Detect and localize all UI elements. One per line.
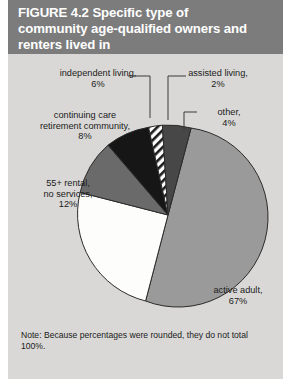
figure-note: Note: Because percentages were rounded, … <box>21 330 273 353</box>
pie-chart: independent living, 6% assisted living, … <box>8 54 283 322</box>
figure-header-line-1: FIGURE 4.2 Specific type of <box>18 5 188 20</box>
pie-label-assisted-living: assisted living, 2% <box>168 68 268 89</box>
pie-label-continuing-care-line1: continuing care <box>26 110 144 121</box>
pie-label-other-value: 4% <box>198 118 260 129</box>
figure-number: FIGURE 4.2 <box>18 5 89 20</box>
pie-label-other: other, 4% <box>198 107 260 128</box>
figure-header-line-2: community age-qualified owners and <box>18 21 247 36</box>
pie-label-active-adult-value: 67% <box>196 296 280 307</box>
pie-label-continuing-care-value: 8% <box>26 131 144 142</box>
pie-label-independent-living-line1: independent living, <box>46 68 150 79</box>
pie-label-55plus-rental: 55+ rental, no services, 12% <box>26 178 110 210</box>
pie-label-continuing-care-line2: retirement community, <box>26 121 144 132</box>
pie-label-independent-living: independent living, 6% <box>46 68 150 89</box>
pie-label-55plus-rental-line2: no services, <box>26 189 110 200</box>
pie-label-continuing-care: continuing care retirement community, 8% <box>26 110 144 142</box>
figure-header: FIGURE 4.2 Specific type of community ag… <box>8 0 283 54</box>
figure-header-line-3: renters lived in <box>18 37 110 52</box>
pie-label-55plus-rental-value: 12% <box>26 199 110 210</box>
pie-label-assisted-living-value: 2% <box>168 79 268 90</box>
figure-title-part-1: Specific type of <box>89 5 188 20</box>
pie-label-active-adult: active adult, 67% <box>196 285 280 306</box>
pie-label-independent-living-value: 6% <box>46 79 150 90</box>
figure-card: FIGURE 4.2 Specific type of community ag… <box>8 0 283 379</box>
pie-label-active-adult-line1: active adult, <box>196 285 280 296</box>
pie-label-55plus-rental-line1: 55+ rental, <box>26 178 110 189</box>
pie-label-other-line1: other, <box>198 107 260 118</box>
pie-label-assisted-living-line1: assisted living, <box>168 68 268 79</box>
